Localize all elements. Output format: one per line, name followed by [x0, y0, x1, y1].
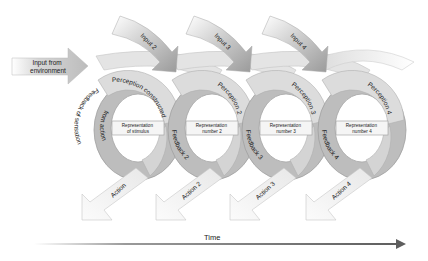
- flow-tail: [318, 50, 414, 70]
- perception-action-diagram: Input from environment Input 2 Input 3 I…: [0, 0, 428, 261]
- time-axis-label: Time: [204, 233, 220, 242]
- input-from-environment-arrow: [12, 48, 88, 84]
- input-from-environment-label: Input from environment: [30, 59, 66, 74]
